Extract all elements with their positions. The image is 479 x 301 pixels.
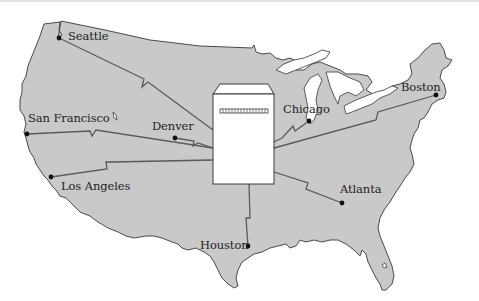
- server-slot: [220, 109, 268, 113]
- seattle-dot: [57, 36, 62, 41]
- label-houston: Houston: [200, 240, 249, 252]
- san-francisco-dot: [25, 132, 30, 137]
- label-atlanta: Atlanta: [340, 184, 381, 196]
- us-network-map: [0, 0, 479, 301]
- server-top-bevel: [213, 84, 274, 94]
- label-denver: Denver: [152, 121, 194, 133]
- atlanta-dot: [340, 201, 345, 206]
- label-san-francisco: San Francisco: [28, 113, 110, 125]
- label-los-angeles: Los Angeles: [61, 181, 130, 193]
- label-boston: Boston: [401, 82, 441, 94]
- denver-dot: [173, 136, 178, 141]
- server-body: [213, 94, 274, 184]
- label-seattle: Seattle: [68, 31, 109, 43]
- central-server: [213, 84, 274, 184]
- los-angeles-dot: [49, 175, 54, 180]
- label-chicago: Chicago: [283, 104, 330, 116]
- chicago-dot: [307, 119, 312, 124]
